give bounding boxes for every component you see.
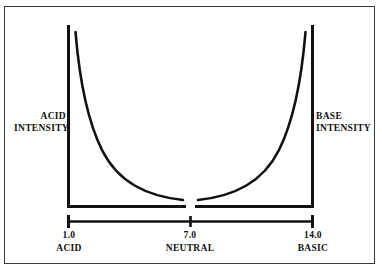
base-intensity-label-line1: BASE (316, 111, 342, 121)
scale-tick-value-basic: 14.0 (286, 229, 340, 242)
base-intensity-label-line2: INTENSITY (316, 123, 371, 133)
scale-tick-label-basic: 14.0 BASIC (286, 229, 340, 255)
scale-tick-value-acid: 1.0 (44, 229, 94, 242)
acid-intensity-label-line1: ACID (41, 111, 66, 121)
scale-tick-label-neutral: 7.0 NEUTRAL (158, 229, 222, 255)
ph-intensity-figure: ACID INTENSITY BASE INTENSITY 1.0 ACID 7… (0, 0, 382, 273)
acid-intensity-label: ACID INTENSITY (14, 111, 66, 134)
base-intensity-label: BASE INTENSITY (316, 111, 376, 134)
scale-tick-name-acid: ACID (44, 242, 94, 255)
base-intensity-curve (198, 32, 306, 200)
scale-tick-label-acid: 1.0 ACID (44, 229, 94, 255)
acid-intensity-label-line2: INTENSITY (14, 123, 69, 133)
scale-tick-name-neutral: NEUTRAL (158, 242, 222, 255)
scale-tick-value-neutral: 7.0 (158, 229, 222, 242)
acid-intensity-curve (76, 32, 184, 200)
scale-tick-name-basic: BASIC (286, 242, 340, 255)
